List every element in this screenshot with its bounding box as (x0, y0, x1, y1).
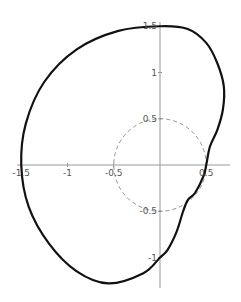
y-tick-label: 1.5 (143, 21, 157, 31)
polar-plot: -1.5-1-0.50.51.510.5-0.5-1 (0, 0, 241, 302)
y-tick-label: -1 (148, 253, 157, 263)
y-tick-label: 1 (151, 68, 157, 78)
y-tick-label: -0.5 (139, 206, 157, 216)
x-tick-label: -1.5 (12, 168, 30, 178)
x-tick-label: 0.5 (199, 168, 213, 178)
polar-curve (21, 26, 224, 283)
x-tick-label: -1 (63, 168, 72, 178)
y-tick-label: 0.5 (143, 114, 157, 124)
axes (17, 22, 230, 288)
tick-labels: -1.5-1-0.50.51.510.5-0.5-1 (12, 21, 213, 262)
x-tick-label: -0.5 (105, 168, 123, 178)
